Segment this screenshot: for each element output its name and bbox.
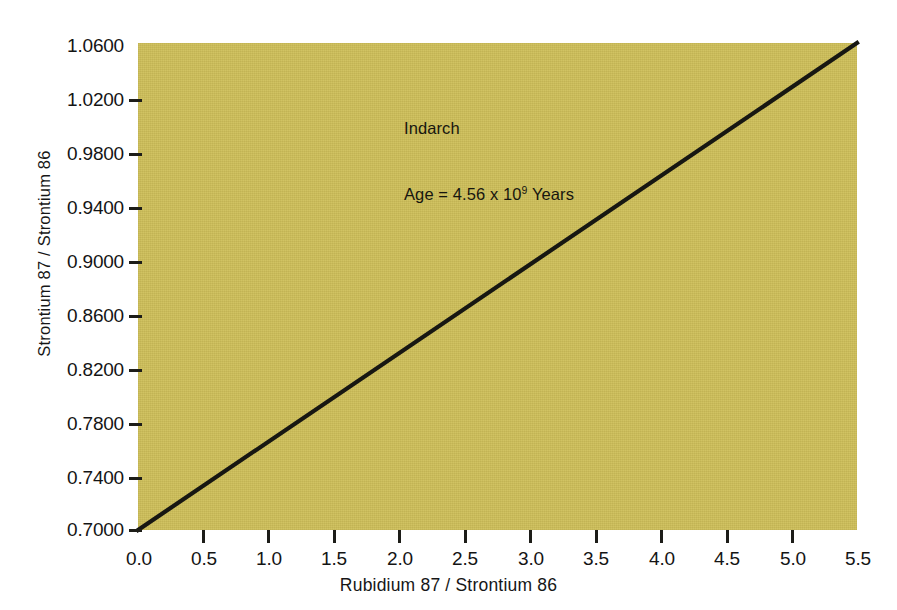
x-tick-mark: [791, 530, 794, 543]
y-tick-mark: [129, 207, 142, 210]
y-tick-label: 0.8600: [48, 305, 124, 327]
x-tick-label: 2.0: [365, 548, 435, 570]
y-tick-label: 0.7800: [48, 413, 124, 435]
y-axis-title: Strontium 87 / Strontium 86: [35, 44, 54, 464]
x-tick-label: 4.0: [627, 548, 697, 570]
x-tick-label: 5.0: [758, 548, 828, 570]
isochron-line: [138, 43, 857, 530]
y-tick-label: 0.9800: [48, 143, 124, 165]
y-tick-mark: [129, 369, 142, 372]
x-tick-mark: [333, 530, 336, 543]
x-tick-label: 0.0: [104, 548, 174, 570]
y-tick-label: 0.9000: [48, 251, 124, 273]
x-tick-label: 3.0: [496, 548, 566, 570]
x-tick-mark: [202, 530, 205, 543]
x-tick-mark: [464, 530, 467, 543]
x-tick-label: 1.5: [299, 548, 369, 570]
x-tick-mark: [660, 530, 663, 543]
annotation-age: Age = 4.56 x 109 Years: [404, 185, 574, 204]
x-tick-label: 3.5: [561, 548, 631, 570]
y-tick-mark: [129, 315, 142, 318]
y-tick-label: 1.0200: [48, 89, 124, 111]
isochron-line-svg: [138, 43, 857, 530]
x-tick-mark: [726, 530, 729, 543]
y-tick-label: 0.7400: [48, 467, 124, 489]
x-tick-label: 0.5: [169, 548, 239, 570]
x-tick-mark: [398, 530, 401, 543]
x-tick-label: 4.5: [692, 548, 762, 570]
y-tick-mark: [129, 99, 142, 102]
y-tick-mark: [129, 153, 142, 156]
y-tick-label: 0.7000: [48, 519, 124, 541]
y-tick-mark: [129, 423, 142, 426]
annotation-age-suffix: Years: [528, 185, 574, 203]
isochron-chart-figure: Indarch Age = 4.56 x 109 Years 1.0600 1.…: [0, 0, 897, 610]
x-tick-label: 5.5: [823, 548, 893, 570]
x-tick-label: 2.5: [430, 548, 500, 570]
x-tick-mark: [595, 530, 598, 543]
x-tick-mark: [267, 530, 270, 543]
y-tick-label: 0.8200: [48, 359, 124, 381]
y-tick-mark: [129, 529, 142, 532]
annotation-age-prefix: Age = 4.56 x 10: [404, 185, 522, 203]
y-tick-mark: [129, 261, 142, 264]
x-tick-label: 1.0: [234, 548, 304, 570]
plot-area: Indarch Age = 4.56 x 109 Years: [138, 43, 857, 530]
annotation-sample-name: Indarch: [404, 119, 460, 138]
x-tick-mark: [529, 530, 532, 543]
y-tick-mark: [129, 477, 142, 480]
y-tick-label: 0.9400: [48, 197, 124, 219]
x-axis-title: Rubidium 87 / Strontium 86: [0, 575, 897, 596]
y-tick-label: 1.0600: [48, 35, 124, 57]
